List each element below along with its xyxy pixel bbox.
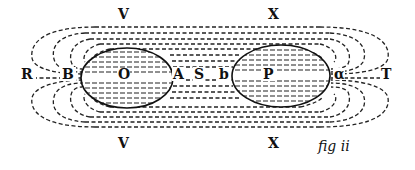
label-t: T (381, 66, 392, 82)
label-s: S (194, 66, 204, 82)
label-r: R (21, 66, 33, 82)
label-p: P (263, 66, 274, 82)
label-o: O (118, 66, 130, 82)
label-v-top: V (117, 6, 130, 22)
label-alpha: α (334, 66, 345, 82)
label-v-bottom: V (117, 135, 130, 151)
label-b: B (62, 66, 74, 82)
body-p (228, 44, 334, 108)
label-a: A (172, 66, 185, 82)
label-b-lower: b (219, 66, 229, 82)
label-x-top: X (268, 6, 279, 22)
figure-caption: fig ii (317, 138, 350, 154)
magnetic-field-diagram: V X V X R B O A S b P α T fig ii (0, 0, 415, 170)
label-x-bottom: X (268, 135, 279, 151)
